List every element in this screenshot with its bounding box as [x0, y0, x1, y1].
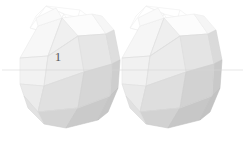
polyhedra-scene: 1: [0, 0, 245, 141]
face-left-mid-a: [20, 56, 48, 86]
polyhedron-left: [20, 8, 120, 128]
render-canvas: 1: [0, 0, 245, 141]
polyhedron-right: [122, 8, 222, 128]
face-right-mid-a: [122, 56, 150, 86]
object-label-1: 1: [55, 49, 62, 64]
